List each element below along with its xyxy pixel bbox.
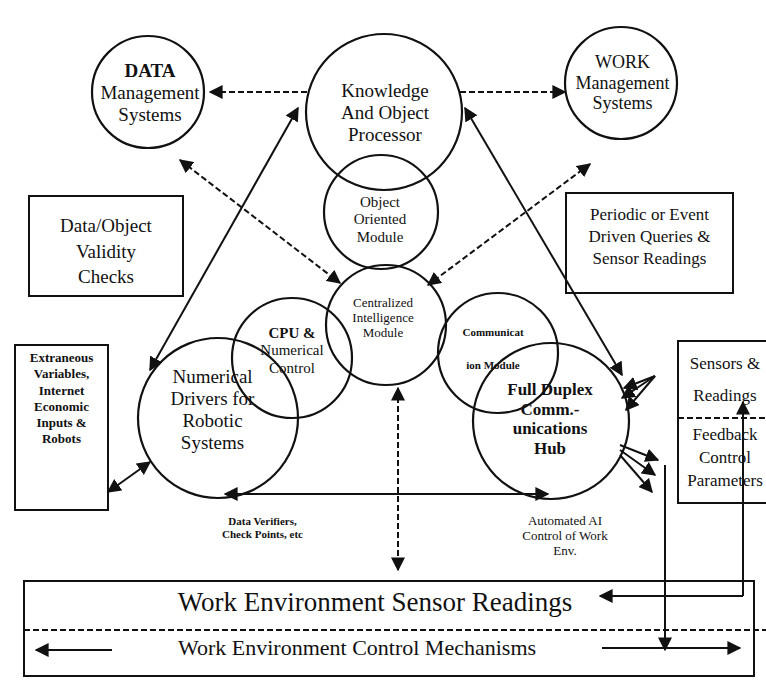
text: CPU & (252, 325, 332, 342)
text: Module (335, 229, 425, 246)
text: Drivers for (150, 388, 275, 410)
text: Data Verifiers, (200, 515, 325, 528)
text: Feedback (678, 424, 766, 447)
text: ion Module (448, 359, 538, 372)
text: Env. (500, 544, 630, 559)
text: Numerical (252, 342, 332, 359)
text: Numerical (150, 366, 275, 388)
duplex-hub-label: Full Duplex Comm.- unications Hub (490, 380, 610, 458)
text: And Object (320, 102, 450, 124)
text: Extraneous (15, 350, 108, 366)
text: Oriented (335, 211, 425, 228)
data-verifiers-label: Data Verifiers, Check Points, etc (200, 515, 325, 540)
text: Economic (15, 399, 108, 415)
text: Inputs & (15, 415, 108, 431)
text: WORK (565, 52, 680, 73)
numerical-drivers-label: Numerical Drivers for Robotic Systems (150, 366, 275, 453)
text: Control of Work (500, 529, 630, 544)
feedback-label: Feedback Control Parameters (678, 424, 766, 493)
text: Internet (15, 383, 108, 399)
text: Automated AI (500, 514, 630, 529)
text: Variables, (15, 366, 108, 382)
text: Communicat (448, 326, 538, 339)
text: Checks (30, 264, 182, 290)
text: Centralized (338, 296, 428, 311)
text: Readings (678, 380, 766, 412)
text: Systems (150, 432, 275, 454)
text: Sensors & (678, 348, 766, 380)
object-oriented-label: Object Oriented Module (335, 194, 425, 246)
text: DATA (95, 60, 205, 82)
text: Data/Object (30, 213, 182, 239)
text: Management (565, 73, 680, 94)
text: Processor (320, 124, 450, 146)
queries-label: Periodic or Event Driven Queries & Senso… (566, 204, 733, 270)
text: Hub (490, 439, 610, 459)
text: Object (335, 194, 425, 211)
text: Knowledge (320, 80, 450, 102)
data-mgmt-label: DATA Management Systems (95, 60, 205, 126)
text: Periodic or Event (566, 204, 733, 226)
text: Robots (15, 431, 108, 447)
sensor-readings-label: Work Environment Sensor Readings (150, 587, 600, 618)
text: Systems (95, 104, 205, 126)
text: Intelligence (338, 311, 428, 326)
text: Sensor Readings (566, 248, 733, 270)
text: Parameters (678, 470, 766, 493)
text: Driven Queries & (566, 226, 733, 248)
central-label: Centralized Intelligence Module (338, 296, 428, 341)
text: Management (95, 82, 205, 104)
text: Module (338, 326, 428, 341)
comm-module-label: Communicat ion Module (448, 326, 538, 371)
text: unications (490, 419, 610, 439)
text: Check Points, etc (200, 528, 325, 541)
validity-label: Data/Object Validity Checks (30, 213, 182, 290)
control-mechanisms-label: Work Environment Control Mechanisms (112, 635, 602, 660)
text: Control (678, 447, 766, 470)
text: Validity (30, 239, 182, 265)
work-mgmt-label: WORK Management Systems (565, 52, 680, 114)
text: Systems (565, 93, 680, 114)
text: Robotic (150, 410, 275, 432)
knowledge-label: Knowledge And Object Processor (320, 80, 450, 146)
extraneous-label: Extraneous Variables, Internet Economic … (15, 350, 108, 448)
sensors-label: Sensors & Readings (678, 348, 766, 413)
text: Comm.- (490, 400, 610, 420)
automated-ai-label: Automated AI Control of Work Env. (500, 514, 630, 559)
text: Full Duplex (490, 380, 610, 400)
